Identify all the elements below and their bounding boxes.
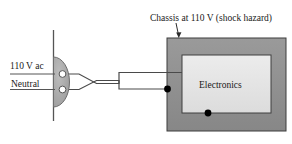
- figure-container: Chassis at 110 V (shock hazard) 110 V ac…: [0, 0, 292, 144]
- wall-outlet-body: [54, 57, 70, 107]
- neutral-wire: [69, 81, 168, 90]
- hot-line-label: 110 V ac: [10, 62, 44, 72]
- chassis-hazard-caption: Chassis at 110 V (shock hazard): [150, 14, 272, 24]
- caption-arrow-head: [176, 32, 181, 38]
- neutral-socket-hole: [59, 86, 66, 93]
- ground-dot: [205, 110, 212, 117]
- electronics-label: Electronics: [199, 81, 242, 91]
- hot-socket-hole: [59, 71, 66, 78]
- neutral-line-label: Neutral: [11, 80, 40, 90]
- hot-wire: [69, 73, 183, 84]
- chassis-connection-dot: [164, 86, 171, 93]
